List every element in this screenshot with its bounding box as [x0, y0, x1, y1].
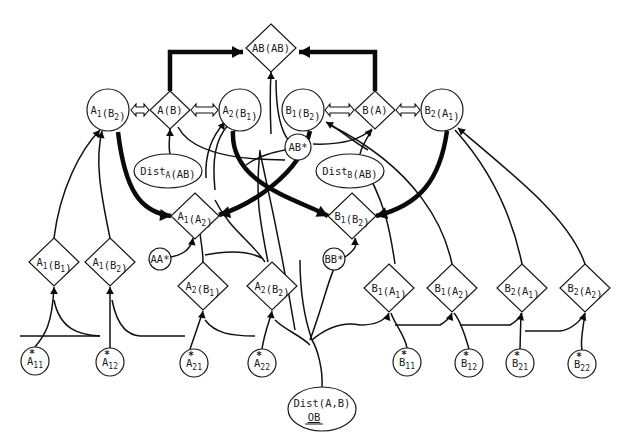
edge: [391, 313, 407, 348]
node-a2-b1-c: A2(B1): [219, 89, 261, 131]
node-ab-ab: AB(AB): [246, 24, 296, 72]
star-superscript: *: [463, 350, 469, 361]
node-a2-b1-d: A2(B1): [178, 262, 228, 310]
dependency-diagram: AB(AB)A1(B2)A(B)A2(B1)B1(B2)B(A)B2(A1)AB…: [0, 0, 630, 447]
node-a-b: A(B): [150, 91, 190, 129]
node-a1-a2: A1(A2): [171, 193, 219, 239]
edge: [35, 287, 54, 347]
edge: [275, 320, 310, 345]
star-superscript: *: [401, 349, 407, 360]
arrowhead-icon: [267, 72, 275, 79]
nodes-layer: AB(AB)A1(B2)A(B)A2(B1)B1(B2)B(A)B2(A1)AB…: [21, 24, 610, 431]
node-a1-b2-d: A1(B2): [85, 238, 135, 286]
node-b11s: B11*: [393, 348, 421, 376]
bold-edge: [299, 52, 375, 91]
double-arrow-icon: [325, 104, 354, 116]
edge: [525, 313, 585, 331]
arrowhead-icon: [166, 129, 174, 136]
arrowhead-icon: [106, 287, 114, 294]
arrowhead-icon: [50, 287, 58, 294]
edge: [520, 313, 521, 349]
edge: [270, 72, 271, 134]
edge: [171, 238, 193, 257]
edge: [54, 300, 100, 336]
node-b2-a2-d: B2(A2): [560, 264, 610, 312]
node-a1-b2-c: A1(B2): [87, 89, 129, 131]
edge: [200, 230, 203, 262]
arrowhead-icon: [198, 311, 206, 319]
node-distb-ab: DistB(AB): [316, 154, 384, 188]
node-b21s: B21*: [506, 349, 534, 377]
star-superscript: *: [514, 350, 520, 361]
node-dista-ab: DistA(AB): [134, 154, 202, 188]
node-label: Dist(A,B): [294, 397, 351, 409]
edge: [395, 313, 452, 325]
edge: [300, 260, 322, 387]
node-b-a: B(A): [355, 91, 395, 129]
edge: [458, 128, 585, 264]
star-superscript: *: [188, 350, 194, 361]
star-superscript: *: [104, 349, 110, 360]
edge: [205, 320, 255, 336]
edge: [99, 131, 110, 238]
node-a11s: A11*: [21, 347, 49, 375]
node-b2-a1-c: B2(A1): [421, 89, 463, 131]
node-b1-b2-d: B1(B2): [328, 193, 376, 239]
node-label: AB(AB): [252, 42, 290, 54]
double-arrow-icon: [191, 104, 218, 116]
node-b1-a2-d: B1(A2): [427, 264, 477, 312]
double-arrow-icon: [396, 104, 420, 116]
node-a2-b2-d: A2(B2): [247, 262, 297, 310]
node-label: B(A): [362, 104, 387, 116]
double-arrow-icon: [131, 104, 149, 116]
node-a12s: A12*: [96, 348, 124, 376]
star-superscript: *: [29, 348, 35, 359]
edge: [310, 259, 340, 340]
node-b12s: B12*: [455, 349, 483, 377]
bold-edges-layer: [118, 46, 447, 221]
star-superscript: *: [256, 350, 262, 361]
bold-arrowhead-icon: [232, 46, 243, 58]
node-a22s: A22*: [248, 349, 276, 377]
node-a21s: A21*: [180, 349, 208, 377]
node-label: BB*: [325, 253, 344, 265]
node-dist-ab-ob: Dist(A,B)OB: [288, 387, 356, 431]
edge: [246, 150, 285, 165]
arrowhead-icon: [267, 311, 275, 319]
star-superscript: *: [576, 351, 582, 362]
edge: [455, 130, 522, 264]
node-bb-star: BB*: [323, 248, 345, 270]
edge: [54, 130, 100, 238]
bold-edge: [376, 131, 447, 216]
bold-arrowhead-icon: [160, 209, 171, 221]
node-b2-a1-d: B2(A1): [497, 264, 547, 312]
node-label: AB*: [289, 141, 308, 153]
edge: [312, 313, 389, 340]
node-sublabel: OB: [308, 411, 321, 423]
edge: [205, 252, 262, 258]
edge: [454, 313, 469, 349]
edge: [112, 300, 185, 336]
node-a1-b1-d: A1(B1): [29, 238, 79, 286]
node-b22s: B22*: [568, 350, 596, 378]
node-label: A(B): [157, 104, 182, 116]
node-aa-star: AA*: [149, 248, 171, 270]
bold-arrowhead-icon: [299, 46, 310, 58]
node-ab-star: AB*: [285, 134, 311, 160]
node-label: AA*: [151, 253, 170, 265]
node-b1-a1-d: B1(A1): [364, 264, 414, 312]
arrowhead-icon: [383, 313, 390, 321]
node-b1-b2-c: B1(B2): [282, 89, 324, 131]
edge: [460, 313, 522, 325]
